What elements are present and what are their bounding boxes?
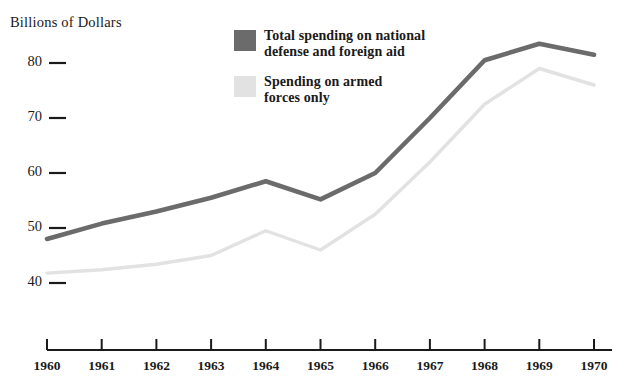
legend-item-total: Total spending on national defense and f… bbox=[234, 28, 494, 61]
legend-swatch-total bbox=[234, 30, 256, 51]
chart-container: Billions of Dollars 4050607080 196019611… bbox=[0, 0, 632, 383]
y-tick-label: 60 bbox=[12, 163, 42, 180]
x-tick-label: 1960 bbox=[19, 358, 75, 374]
legend-label-armed-forces-line1: Spending on armed bbox=[264, 74, 382, 89]
legend-swatch-armed-forces bbox=[234, 76, 256, 97]
x-tick-label: 1963 bbox=[183, 358, 239, 374]
chart-legend: Total spending on national defense and f… bbox=[234, 28, 494, 120]
x-tick-label: 1970 bbox=[566, 358, 622, 374]
x-tick-label: 1966 bbox=[347, 358, 403, 374]
legend-label-total-line2: defense and foreign aid bbox=[264, 44, 425, 60]
x-tick-label: 1965 bbox=[293, 358, 349, 374]
legend-label-armed-forces-line2: forces only bbox=[264, 90, 382, 106]
x-tick-label: 1968 bbox=[457, 358, 513, 374]
x-axis bbox=[47, 339, 612, 350]
legend-item-armed-forces: Spending on armed forces only bbox=[234, 74, 494, 107]
x-tick-label: 1964 bbox=[238, 358, 294, 374]
y-tick-label: 80 bbox=[12, 53, 42, 70]
x-tick-label: 1961 bbox=[74, 358, 130, 374]
legend-label-armed-forces: Spending on armed forces only bbox=[264, 74, 382, 107]
y-tick-marks bbox=[49, 63, 66, 283]
y-tick-label: 70 bbox=[12, 108, 42, 125]
x-tick-label: 1967 bbox=[402, 358, 458, 374]
y-tick-label: 50 bbox=[12, 218, 42, 235]
legend-label-total-line1: Total spending on national bbox=[264, 28, 425, 43]
x-tick-label: 1969 bbox=[511, 358, 567, 374]
legend-label-total: Total spending on national defense and f… bbox=[264, 28, 425, 61]
y-tick-label: 40 bbox=[12, 273, 42, 290]
x-tick-label: 1962 bbox=[128, 358, 184, 374]
